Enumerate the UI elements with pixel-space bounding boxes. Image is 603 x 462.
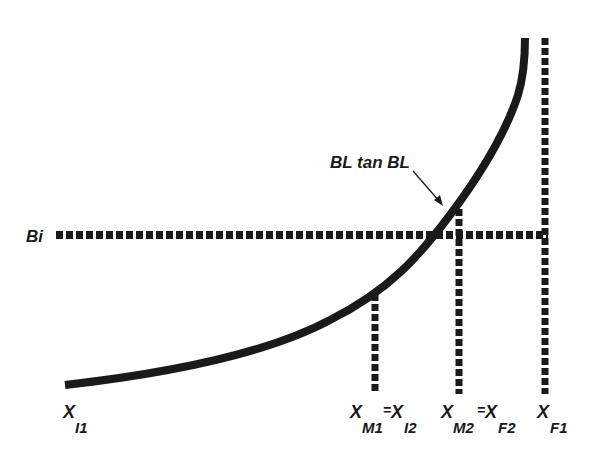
curve-label-arrow: [413, 171, 440, 202]
x-m2-x-f2-label: X M2 = X F2: [440, 402, 516, 436]
svg-text:X: X: [349, 402, 363, 422]
diagram-canvas: BL tan BL Bi X I1 X M1 = X I2 X M2 = X F…: [0, 0, 603, 462]
svg-text:F1: F1: [550, 419, 568, 436]
svg-text:=: =: [383, 402, 391, 418]
svg-text:I2: I2: [404, 419, 417, 436]
svg-text:M1: M1: [362, 419, 383, 436]
svg-text:F2: F2: [498, 419, 516, 436]
svg-text:X: X: [62, 402, 76, 422]
svg-text:I1: I1: [75, 419, 88, 436]
x-i1-label: X I1: [62, 402, 88, 436]
svg-text:X: X: [484, 402, 498, 422]
bi-label: Bi: [26, 227, 44, 246]
x-f1-label: X F1: [536, 402, 568, 436]
x-m1-x-i2-label: X M1 = X I2: [349, 402, 417, 436]
curve-label: BL tan BL: [330, 153, 410, 172]
svg-text:=: =: [477, 402, 485, 418]
svg-text:X: X: [440, 402, 454, 422]
svg-text:X: X: [536, 402, 550, 422]
svg-text:X: X: [390, 402, 404, 422]
svg-text:M2: M2: [453, 419, 474, 436]
